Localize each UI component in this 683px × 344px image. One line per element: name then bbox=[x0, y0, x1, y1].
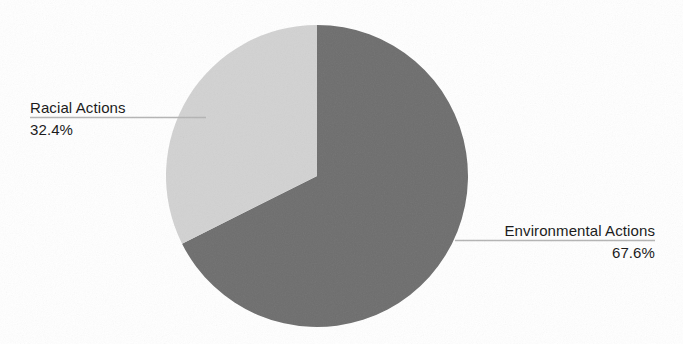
scan-grain-overlay bbox=[0, 0, 683, 344]
pie-label-environmental-actions-value: 67.6% bbox=[400, 242, 655, 262]
pie-label-environmental-actions-name: Environmental Actions bbox=[400, 221, 655, 242]
pie-label-environmental-actions: Environmental Actions 67.6% bbox=[400, 221, 655, 262]
pie-label-racial-actions: Racial Actions 32.4% bbox=[30, 98, 126, 139]
pie-label-racial-actions-value: 32.4% bbox=[30, 119, 126, 139]
pie-chart-figure: Racial Actions 32.4% Environmental Actio… bbox=[0, 0, 683, 344]
pie-chart-svg bbox=[0, 0, 683, 344]
pie-label-racial-actions-name: Racial Actions bbox=[30, 98, 126, 119]
